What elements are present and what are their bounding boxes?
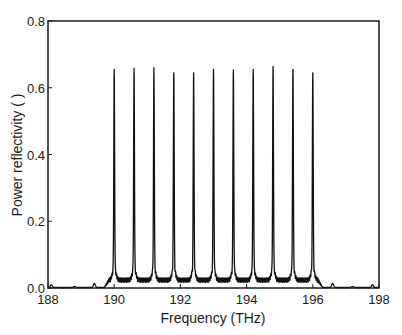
y-tick-label: 0.4	[27, 148, 45, 163]
x-tick-label: 198	[368, 292, 390, 307]
x-axis-label: Frequency (THz)	[160, 310, 265, 326]
reflectivity-chart: 0.00.20.40.60.8 188190192194196198 Frequ…	[0, 0, 402, 335]
reflectivity-curve	[48, 67, 379, 288]
y-tick-label: 0.8	[27, 14, 45, 29]
x-tick-label: 194	[236, 292, 258, 307]
y-tick-label: 0.2	[27, 214, 45, 229]
plot-area	[48, 67, 379, 288]
y-axis-label: Power reflectivity ( )	[9, 94, 25, 217]
x-tick-label: 190	[103, 292, 125, 307]
x-tick-label: 192	[170, 292, 192, 307]
x-tick-label: 188	[37, 292, 59, 307]
y-tick-label: 0.6	[27, 81, 45, 96]
x-tick-label: 196	[302, 292, 324, 307]
